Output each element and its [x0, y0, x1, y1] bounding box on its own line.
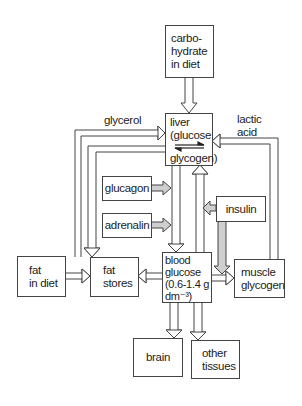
- node-text: carbo-: [171, 32, 213, 45]
- node-text: (glucose: [170, 129, 212, 142]
- node-liver: liver (glucose glycogen): [165, 113, 213, 166]
- node-text: adrenalin: [105, 219, 150, 232]
- arrow-carbohydrate-to-liver: [181, 77, 197, 113]
- node-text: glycogen: [241, 279, 284, 292]
- node-text: other: [202, 347, 239, 360]
- node-brain: brain: [133, 338, 183, 377]
- node-text: liver: [170, 116, 212, 129]
- label-lactic-acid: lactic acid: [237, 113, 261, 139]
- arrow-adrenalin: [151, 218, 171, 232]
- node-text: glucagon: [105, 182, 149, 195]
- node-text: stores: [103, 277, 138, 290]
- arrow-liver-to-fat-stores: [84, 146, 165, 257]
- node-blood-glucose: blood glucose (0.6-1.4 g dm⁻³): [162, 252, 212, 303]
- arrow-liver-to-blood: [168, 165, 184, 252]
- node-text: glucose: [165, 266, 211, 278]
- label-text: lactic: [237, 113, 261, 126]
- arrow-insulin-to-muscle: [214, 221, 230, 274]
- node-carbohydrate-in-diet: carbo- hydrate in diet: [165, 25, 214, 78]
- node-adrenalin: adrenalin: [102, 213, 152, 238]
- label-glycerol: glycerol: [104, 114, 141, 127]
- node-glucagon: glucagon: [102, 176, 152, 201]
- node-fat-stores: fat stores: [90, 257, 139, 297]
- node-text: insulin: [226, 203, 257, 216]
- arrow-glucagon: [151, 181, 171, 195]
- node-insulin: insulin: [216, 196, 266, 222]
- node-text: tissues: [202, 360, 239, 373]
- node-text: fat: [103, 264, 138, 277]
- node-text: hydrate: [171, 45, 213, 58]
- label-text: acid: [237, 126, 261, 139]
- node-text: (0.6-1.4 g: [165, 278, 211, 290]
- node-fat-in-diet: fat in diet: [17, 256, 66, 297]
- node-text: brain: [146, 351, 170, 364]
- node-muscle-glycogen: muscle glycogen: [234, 259, 285, 298]
- node-text: in diet: [171, 58, 213, 71]
- node-text: in diet: [29, 277, 65, 290]
- node-text: dm⁻³): [165, 290, 211, 302]
- arrow-insulin-to-blood-liver: [203, 201, 216, 215]
- node-text: glycogen): [170, 152, 212, 165]
- node-text: blood: [165, 254, 211, 266]
- node-text: fat: [29, 264, 65, 277]
- node-text: muscle: [241, 266, 284, 279]
- node-other-tissues: other tissues: [191, 340, 240, 379]
